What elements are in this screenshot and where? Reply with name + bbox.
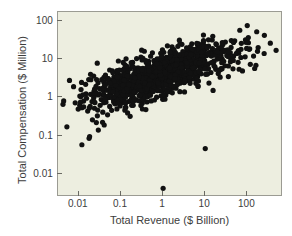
x-axis-title: Total Revenue ($ Billion) <box>57 214 282 226</box>
y-tick-label: 0.1 <box>39 129 53 140</box>
x-tick-mark <box>120 191 121 196</box>
x-tick-mark <box>246 191 247 196</box>
y-tick-label: 10 <box>42 53 53 64</box>
y-tick-mark <box>57 135 62 136</box>
plot-area <box>57 11 282 196</box>
x-tick-mark <box>162 191 163 196</box>
scatter-plot-figure: 0.010.1110100 0.010.1110100 Total Revenu… <box>0 0 292 236</box>
x-tick-label: 100 <box>238 198 255 209</box>
y-axis-title: Total Compensation ($ Million) <box>16 10 28 210</box>
y-tick-label: 1 <box>47 91 53 102</box>
x-tick-mark <box>204 191 205 196</box>
x-tick-label: 10 <box>199 198 210 209</box>
y-tick-label: 100 <box>36 14 53 25</box>
x-tick-label: 0.01 <box>68 198 88 209</box>
y-tick-mark <box>57 20 62 21</box>
x-tick-mark <box>78 191 79 196</box>
x-tick-label: 1 <box>159 198 165 209</box>
y-tick-mark <box>57 58 62 59</box>
scatter-points-layer <box>58 12 281 195</box>
y-tick-mark <box>57 173 62 174</box>
y-tick-mark <box>57 96 62 97</box>
y-tick-label: 0.01 <box>33 167 53 178</box>
x-tick-label: 0.1 <box>113 198 127 209</box>
